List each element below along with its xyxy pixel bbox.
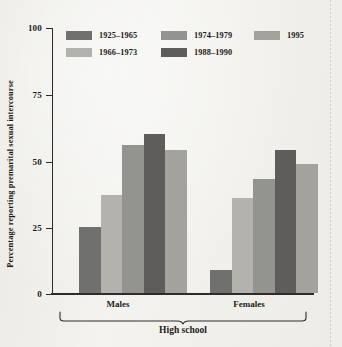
y-tick-label-0: 0 xyxy=(37,289,42,299)
bar-females-1995 xyxy=(296,164,318,294)
legend-swatch-1995 xyxy=(254,31,280,40)
legend-swatch-1966-1973 xyxy=(66,48,92,57)
bar-females-1988-1990 xyxy=(275,150,297,293)
legend-row-2: 1966–1973 1988–1990 xyxy=(66,44,314,61)
bar-males-1966-1973 xyxy=(101,195,123,293)
y-tick-100: 100 xyxy=(46,28,52,29)
legend-item-1966-1973: 1966–1973 xyxy=(66,48,161,57)
legend-swatch-1988-1990 xyxy=(161,48,187,57)
legend-label-1988-1990: 1988–1990 xyxy=(194,48,232,57)
x-axis-line xyxy=(51,293,314,295)
bar-males-1988-1990 xyxy=(144,134,166,293)
legend-item-1925-1965: 1925–1965 xyxy=(66,31,161,40)
legend-item-1974-1979: 1974–1979 xyxy=(161,31,254,40)
legend-row-1: 1925–1965 1974–1979 1995 xyxy=(66,27,314,44)
group-label-males: Males xyxy=(107,299,130,309)
y-tick-75: 75 xyxy=(46,95,52,96)
bar-males-1995 xyxy=(165,150,187,293)
bar-chart-figure: Percentage reporting premarital sexual i… xyxy=(0,0,342,347)
bar-females-1974-1979 xyxy=(253,179,275,293)
page-right-margin xyxy=(332,0,342,347)
scan-edge-artifact xyxy=(330,0,331,347)
legend-label-1925-1965: 1925–1965 xyxy=(99,31,137,40)
group-bracket xyxy=(58,311,308,325)
legend-label-1966-1973: 1966–1973 xyxy=(99,48,137,57)
legend-swatch-1925-1965 xyxy=(66,31,92,40)
y-tick-label-100: 100 xyxy=(28,23,42,33)
legend-item-1988-1990: 1988–1990 xyxy=(161,48,254,57)
bracket-label-high-school: High school xyxy=(159,325,207,335)
bar-males-1974-1979 xyxy=(122,145,144,293)
y-tick-label-50: 50 xyxy=(33,156,42,166)
y-tick-50: 50 xyxy=(46,162,52,163)
plot-area: 100 75 50 25 0 xyxy=(52,28,314,295)
legend-label-1974-1979: 1974–1979 xyxy=(194,31,232,40)
group-label-females: Females xyxy=(233,299,265,309)
y-tick-25: 25 xyxy=(46,228,52,229)
bars-layer xyxy=(53,28,314,293)
legend-item-1995: 1995 xyxy=(254,31,304,40)
y-axis-title: Percentage reporting premarital sexual i… xyxy=(6,80,15,268)
legend-swatch-1974-1979 xyxy=(161,31,187,40)
bar-females-1966-1973 xyxy=(232,198,254,293)
bar-females-1925-1965 xyxy=(210,270,232,294)
y-tick-0: 0 xyxy=(46,294,52,295)
legend-label-1995: 1995 xyxy=(287,31,304,40)
bar-males-1925-1965 xyxy=(79,227,101,293)
y-tick-label-25: 25 xyxy=(33,223,42,233)
y-tick-label-75: 75 xyxy=(33,90,42,100)
chart-legend: 1925–1965 1974–1979 1995 1966–1973 1988–… xyxy=(66,27,314,61)
